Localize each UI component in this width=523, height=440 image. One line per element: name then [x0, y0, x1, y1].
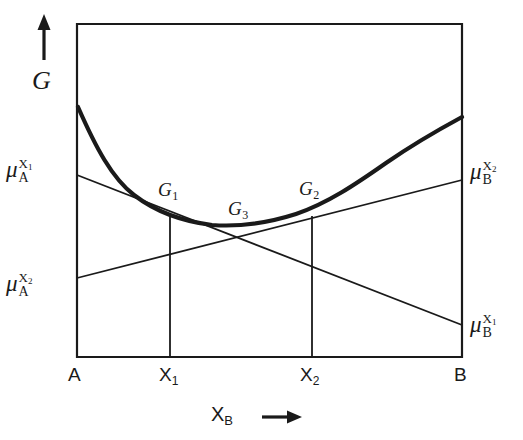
x-tick-label-a: A	[68, 365, 81, 384]
mu-a-x1-label: μX1A	[6, 158, 32, 185]
g3-text: G	[228, 198, 242, 219]
tick-x1-subscript: 1	[172, 374, 179, 388]
plot-frame	[77, 24, 462, 357]
g2-subscript: 2	[313, 188, 319, 202]
free-energy-curve	[78, 107, 462, 226]
y-axis-label: G	[32, 68, 51, 94]
mu-glyph: μ	[6, 271, 18, 296]
mu-b-x2-label: μX2B	[470, 160, 496, 187]
x-axis-title-subscript: B	[224, 413, 233, 428]
g2-text: G	[299, 178, 313, 199]
x-tick-label-x2: X2	[300, 365, 319, 384]
x-tick-label-x1: X1	[159, 365, 178, 384]
mu-subscript: A	[19, 171, 33, 185]
mu-superscript: X1	[19, 158, 33, 171]
up-arrow-icon	[38, 14, 51, 60]
right-arrow-icon	[262, 411, 302, 424]
mu-glyph: μ	[470, 159, 482, 184]
mu-superscript: X1	[483, 313, 497, 326]
x-axis-title-text: X	[211, 403, 224, 425]
x-axis-title: XB	[211, 404, 233, 424]
mu-b-x1-label: μX1B	[470, 313, 496, 340]
mu-subscript: B	[483, 326, 497, 340]
curve-point-label-g1: G1	[158, 180, 178, 199]
tick-x2-subscript: 2	[313, 374, 320, 388]
curve-point-label-g2: G2	[299, 179, 319, 198]
mu-glyph: μ	[6, 157, 18, 182]
tick-a-text: A	[68, 364, 81, 385]
mu-a-x2-label: μX2A	[6, 272, 32, 299]
tick-x1-text: X	[159, 364, 172, 385]
curve-point-label-g3: G3	[228, 199, 248, 218]
mu-superscript: X2	[19, 272, 33, 285]
mu-subscript: A	[19, 285, 33, 299]
free-energy-diagram: G μX1A μX2A μX2B μX1B G1 G3 G2 A X1 X2 B…	[0, 0, 523, 440]
g1-text: G	[158, 179, 172, 200]
tick-b-text: B	[454, 364, 467, 385]
g1-subscript: 1	[172, 189, 178, 203]
mu-superscript: X2	[483, 160, 497, 173]
g3-subscript: 3	[242, 208, 248, 222]
mu-glyph: μ	[470, 312, 482, 337]
x-tick-label-b: B	[454, 365, 467, 384]
tick-x2-text: X	[300, 364, 313, 385]
mu-subscript: B	[483, 173, 497, 187]
